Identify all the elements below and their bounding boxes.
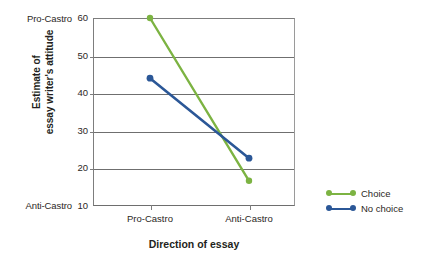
legend-label-choice: Choice xyxy=(361,188,391,199)
y-tick-mark-30 xyxy=(90,132,94,133)
x-tick-label-pro-castro: Pro-Castro xyxy=(110,213,190,224)
gridline-40 xyxy=(94,94,294,95)
y-axis-title: Estimate of essay writer's attitude xyxy=(30,2,58,162)
x-tick-mark-pro-castro xyxy=(151,205,152,210)
gridline-50 xyxy=(94,57,294,58)
y-tick-label-20: 20 xyxy=(68,162,88,173)
y-tick-label-10: 10 xyxy=(68,200,88,211)
x-tick-label-anti-castro: Anti-Castro xyxy=(209,213,289,224)
gridline-30 xyxy=(94,132,294,133)
y-tick-mark-50 xyxy=(90,57,94,58)
x-tick-mark-anti-castro xyxy=(250,205,251,210)
y-axis-title-line2: essay writer's attitude xyxy=(44,30,55,135)
plot-area xyxy=(93,18,295,206)
legend-item-no-choice: No choice xyxy=(326,201,422,216)
y-tick-label-30: 30 xyxy=(68,125,88,136)
legend-swatch-no-choice-icon xyxy=(326,203,356,214)
y-axis-anchor-label-low: Anti-Castro xyxy=(8,200,72,211)
y-tick-label-60: 60 xyxy=(68,12,88,23)
legend-swatch-choice-icon xyxy=(326,188,356,199)
y-tick-mark-40 xyxy=(90,94,94,95)
gridline-20 xyxy=(94,169,294,170)
y-axis-title-line1: Estimate of xyxy=(31,55,42,109)
legend-item-choice: Choice xyxy=(326,186,422,201)
x-axis-title: Direction of essay xyxy=(93,238,295,250)
y-tick-mark-20 xyxy=(90,169,94,170)
y-tick-label-40: 40 xyxy=(68,87,88,98)
chart-legend: Choice No choice xyxy=(326,186,422,216)
line-chart-figure: Pro-Castro Anti-Castro Estimate of essay… xyxy=(0,0,425,263)
legend-label-no-choice: No choice xyxy=(361,203,403,214)
y-tick-label-50: 50 xyxy=(68,50,88,61)
